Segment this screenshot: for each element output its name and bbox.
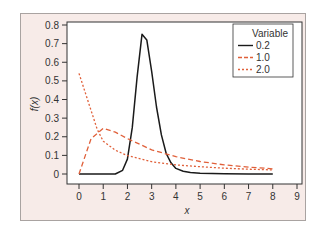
y-tick-label: 0.2: [45, 131, 59, 142]
legend: Variable 0.21.02.0: [233, 24, 293, 77]
x-tick-label: 6: [222, 191, 228, 202]
x-tick-label: 5: [197, 191, 203, 202]
x-tick-label: 3: [149, 191, 155, 202]
x-tick-label: 1: [100, 191, 106, 202]
x-tick-label: 4: [173, 191, 179, 202]
y-tick-label: 0.6: [45, 57, 59, 68]
x-axis: 0123456789: [76, 184, 300, 202]
y-axis-title: f(x): [29, 97, 40, 111]
y-tick-label: 0.7: [45, 38, 59, 49]
x-tick-label: 0: [76, 191, 82, 202]
x-tick-label: 8: [270, 191, 276, 202]
line-chart: 00.10.20.30.40.50.60.70.8 0123456789 f(x…: [0, 0, 325, 234]
y-tick-label: 0.8: [45, 20, 59, 31]
legend-label: 0.2: [256, 40, 270, 51]
y-tick-label: 0: [53, 169, 59, 180]
y-tick-label: 0.1: [45, 150, 59, 161]
y-tick-label: 0.3: [45, 113, 59, 124]
x-axis-title: x: [184, 205, 191, 216]
y-axis: 00.10.20.30.40.50.60.70.8: [45, 20, 67, 180]
legend-label: 1.0: [256, 52, 270, 63]
y-tick-label: 0.5: [45, 75, 59, 86]
legend-label: 2.0: [256, 64, 270, 75]
x-tick-label: 9: [294, 191, 300, 202]
x-tick-label: 2: [125, 191, 131, 202]
y-tick-label: 0.4: [45, 94, 59, 105]
x-tick-label: 7: [246, 191, 252, 202]
legend-title: Variable: [252, 28, 288, 39]
